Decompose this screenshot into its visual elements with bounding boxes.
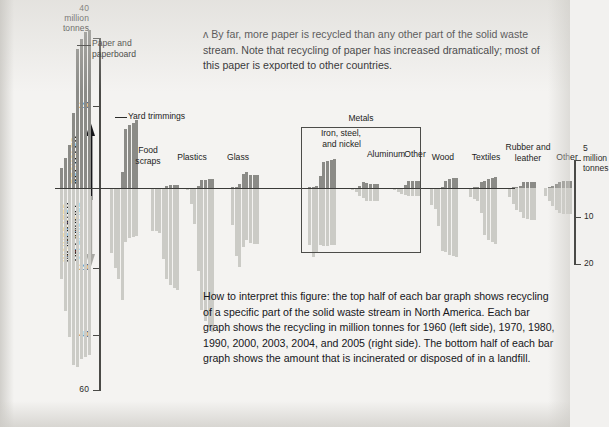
bar-recycled [566, 181, 569, 188]
bar-landfilled [162, 188, 165, 259]
bar-landfilled [441, 188, 444, 251]
bar-landfilled [135, 188, 138, 236]
bar-landfilled [121, 188, 124, 300]
bar-recycled [72, 113, 75, 188]
bar-landfilled [544, 188, 547, 196]
bar-landfilled [173, 188, 176, 288]
right-axis-unit-line2: tonnes [583, 163, 609, 173]
bar-landfilled [114, 188, 117, 268]
metals-group-label: Metals [301, 113, 421, 123]
bar-landfilled [519, 188, 522, 212]
bar-landfilled [480, 188, 483, 213]
bar-recycled [60, 168, 63, 188]
left-axis-unit-line1: million [33, 13, 89, 23]
bar-landfilled [72, 188, 75, 365]
bar-recycled [68, 145, 71, 188]
bar-landfilled [437, 188, 440, 226]
bar-recycled [452, 178, 455, 188]
category-label-iron-steel-nickel: Iron, steel, and nickel [305, 128, 361, 149]
scan-shade-bottom [0, 401, 570, 427]
bar-recycled [84, 32, 87, 188]
bar-landfilled [238, 188, 241, 267]
bar-landfilled [64, 188, 67, 311]
bar-recycled [121, 172, 124, 188]
bar-recycled [444, 181, 447, 188]
bar-landfilled [448, 188, 451, 255]
left-axis-tick-20 [93, 106, 101, 107]
bar-recycled [494, 177, 497, 188]
bar-landfilled [253, 188, 256, 244]
zero-baseline [55, 188, 515, 189]
bar-landfilled [245, 188, 248, 240]
bar-landfilled [242, 188, 245, 247]
bar-recycled [569, 181, 572, 188]
bar-landfilled [526, 188, 529, 219]
category-label-wood: Wood [425, 152, 461, 163]
bar-landfilled [558, 188, 561, 213]
scan-shade-left [0, 0, 14, 427]
bar-landfilled [80, 188, 83, 359]
bar-landfilled [512, 188, 515, 204]
right-axis-tick-20 [574, 264, 581, 265]
bar-landfilled [476, 188, 479, 201]
bar-recycled [88, 30, 91, 188]
bar-recycled [487, 179, 490, 188]
bar-recycled [245, 172, 248, 188]
bar-recycled [204, 180, 207, 188]
bar-landfilled [84, 188, 87, 357]
bar-landfilled [566, 188, 569, 214]
category-label-food: Food scraps [126, 145, 170, 166]
bar-recycled [448, 179, 451, 188]
right-axis-line [574, 160, 576, 265]
bar-landfilled [165, 188, 168, 279]
bar-landfilled [231, 188, 234, 225]
bar-landfilled [76, 188, 79, 367]
bar-landfilled [494, 188, 497, 244]
bar-recycled [253, 175, 256, 188]
bar-landfilled [124, 188, 127, 242]
category-label-yard: Yard trimmings [128, 111, 188, 122]
paper-leader-line [77, 45, 91, 46]
bar-landfilled [176, 188, 179, 290]
category-label-textiles: Textiles [465, 152, 507, 163]
left-axis-tick-neg60 [93, 390, 101, 391]
caption-top: ʌ By far, more paper is recycled than an… [203, 27, 555, 74]
bar-landfilled [515, 188, 518, 210]
bar-recycled [200, 180, 203, 188]
category-label-other: Other [550, 152, 584, 163]
bar-landfilled [68, 188, 71, 337]
bar-landfilled [551, 188, 554, 206]
bar-recycled [249, 175, 252, 188]
right-axis-tick-10 [574, 217, 581, 218]
left-axis-tick-neg40 [93, 335, 101, 336]
bar-landfilled [533, 188, 536, 220]
bar-recycled [483, 181, 486, 188]
category-label-rubber-leather: Rubber and leather [502, 142, 554, 163]
bar-recycled [76, 49, 79, 189]
bar-landfilled [491, 188, 494, 242]
yard-leader-line [115, 117, 127, 118]
bar-landfilled [132, 188, 135, 237]
bar-recycled [64, 158, 67, 188]
bar-landfilled [256, 188, 259, 244]
bar-landfilled [562, 188, 565, 214]
bar-landfilled [128, 188, 131, 238]
right-axis-unit-line1: million [583, 153, 607, 163]
right-axis-label-20: 20 [584, 258, 593, 268]
bar-landfilled [430, 188, 433, 205]
bar-recycled [211, 179, 214, 188]
bar-landfilled [444, 188, 447, 252]
bar-landfilled [88, 188, 91, 355]
bar-recycled [256, 175, 259, 188]
bar-recycled [491, 178, 494, 188]
left-axis-unit-line2: tonnes [33, 23, 89, 33]
bar-landfilled [548, 188, 551, 201]
left-axis-top-value: 40 [53, 3, 89, 13]
bar-recycled [455, 178, 458, 188]
left-axis-tick-neg20 [93, 268, 101, 269]
category-label-glass: Glass [218, 152, 258, 163]
bar-landfilled [235, 188, 238, 256]
caption-bottom: How to interpret this figure: the top ha… [203, 289, 555, 367]
bar-landfilled [190, 188, 193, 204]
bar-recycled [208, 179, 211, 188]
